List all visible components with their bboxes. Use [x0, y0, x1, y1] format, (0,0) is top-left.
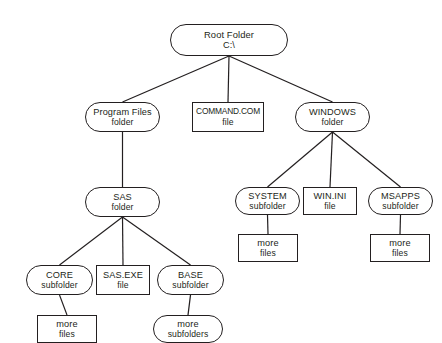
edge-windows-to-win-ini — [330, 132, 333, 187]
node-windows[interactable]: WINDOWSfolder — [295, 102, 370, 132]
edge-sas-to-core — [60, 217, 123, 265]
edge-windows-to-system — [268, 132, 333, 187]
edge-msapps-to-msapps-more-files — [400, 215, 401, 234]
node-label-secondary: files — [59, 329, 75, 339]
edge-sas-to-base — [123, 217, 191, 265]
node-label-primary: MSAPPS — [381, 191, 420, 202]
node-system-more-files[interactable]: morefiles — [238, 234, 298, 262]
node-msapps-more-files[interactable]: morefiles — [370, 234, 430, 262]
node-system[interactable]: SYSTEMsubfolder — [235, 187, 300, 215]
node-label-primary: WIN.INI — [314, 191, 347, 202]
node-base[interactable]: BASEsubfolder — [157, 265, 224, 295]
edge-sas-to-sas-exe — [123, 217, 124, 265]
node-program-files[interactable]: Program Filesfolder — [85, 102, 160, 132]
edge-core-to-core-more-files — [60, 295, 68, 315]
node-label-secondary: file — [117, 280, 128, 290]
node-label-primary: COMMAND.COM — [196, 107, 260, 117]
node-label-primary: SYSTEM — [248, 191, 286, 202]
node-label-secondary: folder — [111, 202, 133, 212]
directory-structure-diagram: Root FolderC:\Program FilesfolderCOMMAND… — [0, 0, 442, 343]
edge-system-to-system-more-files — [268, 215, 269, 234]
edge-root-to-command-com — [228, 56, 229, 102]
node-label-primary: CORE — [46, 270, 73, 281]
node-core[interactable]: COREsubfolder — [26, 265, 93, 295]
node-label-secondary: folder — [111, 117, 133, 127]
node-label-primary: more — [389, 238, 410, 249]
edge-base-to-base-more-subfolders — [188, 295, 191, 315]
node-sas[interactable]: SASfolder — [85, 187, 160, 217]
node-label-secondary: subfolder — [249, 201, 285, 211]
edge-root-to-windows — [229, 56, 333, 102]
node-label-secondary: folder — [321, 117, 343, 127]
node-label-primary: WINDOWS — [309, 107, 356, 118]
node-base-more-subfolders[interactable]: moresubfolders — [153, 315, 223, 343]
node-label-primary: Program Files — [93, 107, 151, 118]
node-label-primary: Root Folder — [204, 29, 254, 40]
node-label-primary: more — [177, 319, 198, 330]
node-label-secondary: C:\ — [223, 40, 235, 51]
node-label-secondary: subfolder — [41, 280, 77, 290]
node-label-secondary: file — [324, 201, 335, 211]
node-label-primary: SAS.EXE — [103, 270, 143, 281]
node-label-secondary: files — [260, 248, 276, 258]
node-label-secondary: file — [222, 117, 233, 127]
node-sas-exe[interactable]: SAS.EXEfile — [96, 265, 150, 295]
node-core-more-files[interactable]: morefiles — [37, 315, 97, 343]
node-label-primary: SAS — [113, 192, 132, 203]
node-label-primary: BASE — [178, 270, 203, 281]
node-label-primary: more — [257, 238, 278, 249]
node-win-ini[interactable]: WIN.INIfile — [303, 187, 357, 215]
node-label-secondary: files — [392, 248, 408, 258]
node-label-secondary: subfolder — [382, 201, 418, 211]
node-command-com[interactable]: COMMAND.COMfile — [192, 102, 264, 132]
node-root[interactable]: Root FolderC:\ — [170, 24, 288, 56]
node-msapps[interactable]: MSAPPSsubfolder — [368, 187, 433, 215]
edge-windows-to-msapps — [333, 132, 401, 187]
node-label-primary: more — [56, 319, 77, 330]
node-label-secondary: subfolders — [168, 329, 209, 339]
edge-root-to-program-files — [123, 56, 230, 102]
node-label-secondary: subfolder — [172, 280, 208, 290]
